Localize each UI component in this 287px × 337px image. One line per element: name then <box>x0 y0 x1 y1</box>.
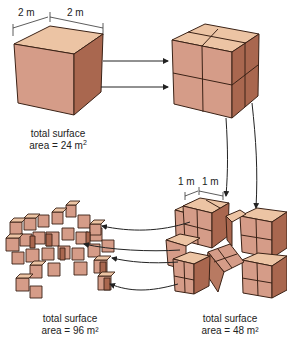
medium-dim-right: 1 m <box>202 176 219 187</box>
arrows-large-to-split <box>101 61 168 87</box>
large-cube-caption: total surface area = 24 m2 <box>18 128 98 152</box>
large-cube-caption-line2: area = 24 m2 <box>18 140 98 152</box>
medium-dimension-lines <box>185 187 223 200</box>
arrows-split-to-medium <box>226 103 257 208</box>
large-cube-dim-left: 2 m <box>18 7 35 18</box>
medium-pieces-caption: total surface area = 48 m² <box>185 313 275 337</box>
large-cube-dim-right: 2 m <box>67 7 84 18</box>
small-pieces <box>6 201 115 298</box>
medium-dim-left: 1 m <box>178 176 195 187</box>
small-pieces-caption: total surface area = 96 m² <box>25 313 115 337</box>
large-cube <box>14 26 103 115</box>
split-cube <box>172 24 259 118</box>
medium-pieces <box>166 198 287 298</box>
